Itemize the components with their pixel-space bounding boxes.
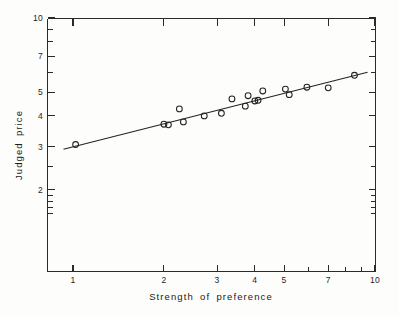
figure-canvas: 2345710 12345710 Strength of preference …	[0, 0, 399, 316]
y-tick-label: 4	[38, 111, 43, 121]
data-point	[218, 110, 224, 116]
y-axis-title: Judged price	[13, 110, 24, 180]
data-point	[282, 86, 288, 92]
y-tick-label: 7	[38, 51, 43, 61]
scatter-plot: 2345710 12345710 Strength of preference …	[0, 0, 399, 316]
data-point	[229, 96, 235, 102]
x-axis-tick-labels: 12345710	[70, 275, 380, 285]
x-tick-label: 4	[252, 275, 257, 285]
data-point	[242, 103, 248, 109]
x-tick-label: 1	[70, 275, 75, 285]
x-axis-title: Strength of preference	[149, 291, 273, 302]
y-tick-label: 3	[38, 142, 43, 152]
y-axis-ticks	[48, 18, 376, 214]
data-point	[176, 106, 182, 112]
data-point	[325, 85, 331, 91]
y-tick-label: 10	[33, 13, 43, 23]
x-axis-ticks	[73, 19, 375, 272]
data-point	[286, 92, 292, 98]
plot-frame	[48, 19, 376, 272]
x-tick-label: 3	[215, 275, 220, 285]
data-point	[245, 93, 251, 99]
regression-line	[63, 72, 367, 149]
x-tick-label: 5	[282, 275, 287, 285]
x-tick-label: 7	[326, 275, 331, 285]
y-tick-label: 2	[38, 185, 43, 195]
axis-lines-top-right	[48, 19, 376, 272]
data-point	[180, 119, 186, 125]
y-tick-label: 5	[38, 87, 43, 97]
x-tick-label: 10	[370, 275, 380, 285]
data-point	[260, 88, 266, 94]
axis-lines	[48, 19, 376, 272]
x-tick-label: 2	[161, 275, 166, 285]
y-axis-tick-labels: 2345710	[33, 13, 43, 195]
